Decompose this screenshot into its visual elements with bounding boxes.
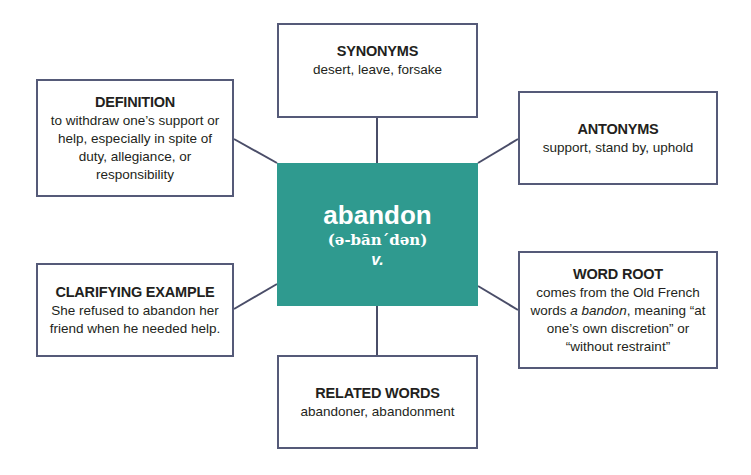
word-root-text: comes from the Old French words a bandon… [520, 284, 716, 356]
part-of-speech: v. [371, 250, 383, 270]
connector-example [234, 284, 277, 309]
pronunciation: (ə-băn´dən) [328, 230, 428, 250]
example-title: CLARIFYING EXAMPLE [55, 283, 214, 302]
synonyms-box: SYNONYMS desert, leave, forsake [277, 23, 478, 118]
related-text: abandoner, abandonment [295, 403, 461, 421]
synonyms-title: SYNONYMS [337, 42, 418, 61]
center-word-box: abandon (ə-băn´dən) v. [277, 163, 478, 306]
example-text: She refused to abandon her friend when h… [38, 302, 232, 338]
definition-box: DEFINITION to withdraw one’s support or … [36, 79, 234, 197]
connector-word-root [478, 286, 518, 310]
antonyms-text: support, stand by, uphold [537, 139, 700, 157]
word-root-title: WORD ROOT [573, 265, 663, 284]
synonyms-text: desert, leave, forsake [307, 61, 448, 79]
connector-antonyms [478, 139, 518, 163]
connector-definition [234, 139, 277, 163]
antonyms-box: ANTONYMS support, stand by, uphold [518, 91, 718, 185]
center-word: abandon [323, 200, 431, 230]
word-root-text-italic: a bandon [570, 303, 626, 318]
clarifying-example-box: CLARIFYING EXAMPLE She refused to abando… [36, 263, 234, 357]
related-title: RELATED WORDS [315, 384, 439, 403]
definition-title: DEFINITION [95, 93, 175, 112]
related-words-box: RELATED WORDS abandoner, abandonment [277, 355, 478, 449]
definition-text: to withdraw one’s support or help, espec… [38, 112, 232, 184]
word-root-box: WORD ROOT comes from the Old French word… [518, 251, 718, 369]
antonyms-title: ANTONYMS [577, 120, 658, 139]
